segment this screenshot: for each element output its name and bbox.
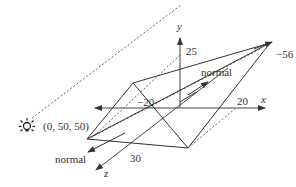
ray-to-vertex bbox=[254, 42, 272, 49]
normal-label-lower: normal bbox=[55, 153, 86, 165]
x-tick-label: 20 bbox=[237, 95, 249, 107]
z-axis bbox=[96, 68, 228, 170]
x-neg-tick-label: −20 bbox=[137, 96, 155, 108]
z-axis-label: z bbox=[103, 167, 109, 179]
normal-upper-tail bbox=[180, 92, 196, 102]
edge-left-right bbox=[87, 43, 270, 139]
light-ray-diag bbox=[88, 48, 262, 139]
x-axis-label: x bbox=[260, 93, 266, 105]
diagram-canvas: y 25 −56 normal −20 20 x (0, 50, 50) nor… bbox=[0, 0, 296, 187]
light-bulb-icon bbox=[19, 118, 35, 132]
normal-label-upper: normal bbox=[201, 66, 232, 78]
edge-left-top bbox=[87, 83, 133, 139]
z-tick-label: 30 bbox=[130, 152, 142, 164]
vertex-label: −56 bbox=[276, 48, 294, 60]
light-position-label: (0, 50, 50) bbox=[43, 120, 89, 133]
normal-vectors bbox=[88, 82, 208, 152]
edge-left-bottom bbox=[87, 139, 188, 148]
y-tick-label: 25 bbox=[186, 45, 198, 57]
y-axis-label: y bbox=[176, 20, 182, 32]
light-ray-bottom bbox=[188, 108, 236, 148]
edge-bottom-right bbox=[188, 43, 270, 148]
